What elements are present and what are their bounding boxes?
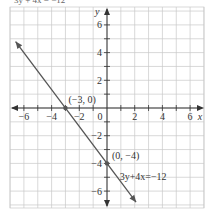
y-tick-label: −4	[91, 158, 102, 169]
line-end-arrow-icon	[129, 195, 136, 202]
point-marker	[105, 161, 109, 165]
y-tick-label: 6	[97, 19, 102, 30]
y-tick-label: 2	[97, 75, 102, 86]
x-tick-label: −4	[46, 111, 57, 122]
point-label: (−3, 0)	[68, 94, 95, 106]
y-axis-down-arrow-icon	[104, 200, 110, 207]
coordinate-plane: 3y + 4x = −12 −6−4−20246−6−4−2246xy (−3,…	[0, 0, 211, 211]
x-axis-label: x	[197, 111, 203, 122]
cut-off-header-text: 3y + 4x = −12	[14, 0, 65, 5]
y-axis-label: y	[94, 6, 100, 17]
point-marker	[63, 106, 67, 110]
x-tick-label: 0	[98, 111, 103, 122]
x-axis-left-arrow-icon	[11, 105, 18, 111]
y-tick-label: −6	[91, 186, 102, 197]
y-axis-up-arrow-icon	[104, 8, 110, 15]
line-start-arrow-icon	[16, 42, 23, 49]
x-tick-label: 4	[160, 111, 165, 122]
equation-label: 3y+4x=−12	[120, 171, 167, 182]
equation-annotation: 3y+4x=−12	[120, 171, 167, 182]
y-tick-label: 4	[97, 47, 102, 58]
x-tick-label: −6	[19, 111, 30, 122]
x-tick-label: 2	[132, 111, 137, 122]
x-tick-label: 6	[188, 111, 193, 122]
point-label: (0, −4)	[112, 150, 139, 162]
y-tick-label: −2	[91, 130, 102, 141]
x-tick-label: −2	[74, 111, 85, 122]
